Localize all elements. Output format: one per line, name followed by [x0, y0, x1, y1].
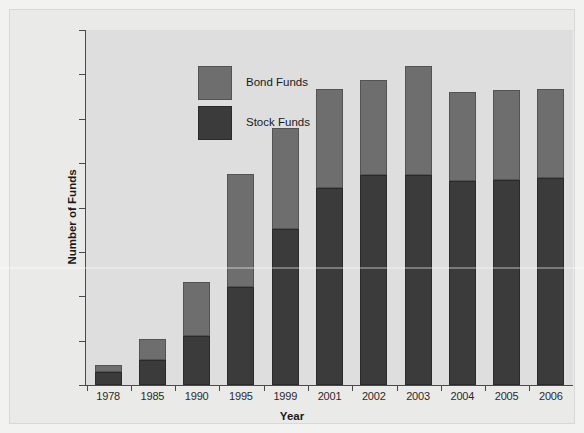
bar-segment-stock [95, 372, 122, 385]
x-tick-label: 2002 [350, 390, 398, 402]
bar-segment-stock [537, 178, 564, 385]
bar-1978 [95, 365, 122, 385]
chart-figure: Number of Funds Year 0100020003000400050… [0, 0, 584, 433]
plot-area: 010002000300040005000600070008000 197819… [85, 30, 573, 386]
bar-segment-stock [316, 188, 343, 385]
bar-2001 [316, 89, 343, 385]
bar-1985 [139, 339, 166, 385]
bar-segment-bond [537, 89, 564, 179]
y-tick [79, 252, 86, 253]
x-tick-label: 2001 [306, 390, 354, 402]
y-tick [79, 163, 86, 164]
bar-segment-bond [493, 90, 520, 180]
x-tick-label: 2005 [483, 390, 531, 402]
x-tick-label: 1995 [217, 390, 265, 402]
x-tick-label: 2004 [438, 390, 486, 402]
bar-1999 [272, 128, 299, 385]
bar-segment-bond [183, 282, 210, 337]
bar-segment-stock [360, 175, 387, 385]
legend-swatch-stock-icon [198, 106, 232, 140]
x-tick-label: 1999 [261, 390, 309, 402]
x-tick-label: 1990 [173, 390, 221, 402]
x-tick-label: 2003 [394, 390, 442, 402]
bar-segment-stock [405, 175, 432, 385]
bar-segment-bond [360, 80, 387, 175]
bar-1990 [183, 282, 210, 385]
bar-segment-bond [405, 66, 432, 176]
y-tick [79, 208, 86, 209]
bar-segment-stock [227, 287, 254, 385]
bar-1995 [227, 174, 254, 385]
bar-2002 [360, 80, 387, 385]
x-tick-label: 1985 [128, 390, 176, 402]
bar-segment-bond [272, 128, 299, 229]
bar-segment-bond [316, 89, 343, 188]
y-tick [79, 30, 86, 31]
y-axis-title: Number of Funds [66, 169, 78, 264]
bar-segment-stock [183, 336, 210, 385]
y-tick [79, 74, 86, 75]
y-tick [79, 341, 86, 342]
bar-segment-bond [139, 339, 166, 359]
y-tick [79, 119, 86, 120]
bar-2006 [537, 89, 564, 385]
y-tick [79, 296, 86, 297]
legend-label-bond: Bond Funds [246, 76, 308, 88]
bar-segment-bond [449, 92, 476, 181]
bar-segment-bond [227, 174, 254, 288]
x-tick-label: 1978 [84, 390, 132, 402]
x-axis-title: Year [10, 410, 574, 422]
bar-segment-bond [95, 365, 122, 371]
bar-2003 [405, 66, 432, 386]
bar-2005 [493, 90, 520, 385]
x-tick-label: 2006 [527, 390, 575, 402]
bar-segment-stock [272, 229, 299, 385]
bar-segment-stock [139, 360, 166, 385]
bar-segment-stock [493, 180, 520, 385]
bar-2004 [449, 92, 476, 385]
y-tick [79, 385, 86, 386]
bar-segment-stock [449, 181, 476, 385]
legend-swatch-bond-icon [198, 66, 232, 100]
legend-label-stock: Stock Funds [246, 116, 310, 128]
figure-frame: Number of Funds Year 0100020003000400050… [9, 9, 575, 424]
